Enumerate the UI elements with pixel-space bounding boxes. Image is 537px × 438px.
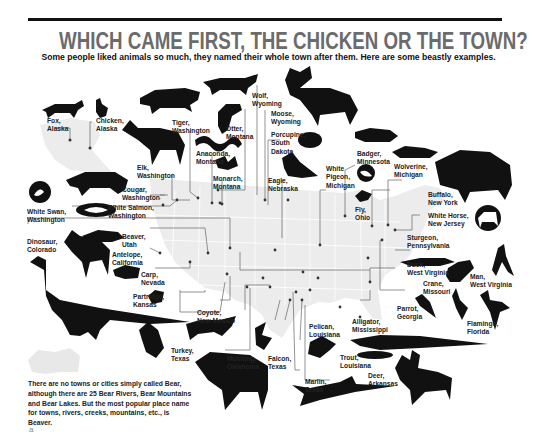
label-badger: Badger,Minnesota (357, 150, 390, 167)
label-duck: Duck,West Virginia (407, 261, 449, 278)
dinosaur-icon (30, 256, 190, 340)
crane-icon (452, 288, 468, 320)
bear-note: There are no towns or cities simply call… (28, 379, 194, 428)
label-flamingo: Flamingo,Florida (467, 320, 498, 337)
label-crane: Crane,Missouri (423, 280, 450, 297)
label-wolf: Wolf,Wyoming (252, 92, 282, 109)
label-eagle: Eagle,Nebraska (268, 177, 298, 194)
label-tiger: Tiger,Washington (172, 119, 210, 136)
label-alligator: Alligator,Mississippi (352, 318, 388, 335)
label-coyote: Coyote,New Mexico (197, 309, 235, 326)
label-carp: Carp,Nevada (141, 271, 165, 288)
label-turkey: Turkey,Texas (171, 347, 194, 364)
label-beaver: Beaver,Utah (122, 233, 146, 250)
chicken-icon (96, 98, 108, 118)
label-partridge: Partridge,Kansas (133, 293, 164, 310)
label-otter: Otter,Montana (226, 125, 253, 142)
label-elk: Elk,Washington (137, 164, 175, 181)
label-white-horse: White Horse,New Jersey (428, 212, 469, 229)
label-buffalo: Buffalo,New York (428, 191, 458, 208)
label-monarch: Monarch,Montana (213, 175, 243, 192)
label-porcupine: Porcupine,SouthDakota (271, 131, 305, 156)
turkey-icon (139, 322, 164, 358)
wolverine-icon (392, 146, 438, 158)
wolf-icon (203, 74, 258, 95)
label-antelope: Antelope,California (112, 251, 143, 268)
label-moose: Moose,Wyoming (271, 110, 301, 127)
deer-icon (395, 350, 452, 405)
label-white-salmon: White Salmon,Washington (108, 204, 154, 221)
label-white-pigeon: WhitePigeon,Michigan (326, 165, 355, 190)
man-icon (492, 244, 514, 276)
page-marker: a (29, 425, 33, 434)
label-fox: Fox,Alaska (47, 117, 68, 134)
tiger-icon (140, 88, 200, 114)
cougar-icon (66, 172, 128, 196)
label-marlin: Marlin,Texas (305, 378, 326, 395)
label-anaconda: Anaconda,Montana (196, 150, 230, 167)
label-wolverine: Wolverine,Michigan (394, 163, 428, 180)
bear-icon (28, 348, 80, 374)
label-chicken: Chicken,Alaska (96, 117, 124, 134)
label-pelican: Pelican,Louisiana (309, 323, 340, 340)
badger-icon (355, 128, 398, 142)
label-fly: Fly,Ohio (355, 206, 370, 223)
label-man: Man,West Virginia (470, 273, 512, 290)
alligator-icon (350, 335, 488, 350)
label-deer: Deer,Arkansas (368, 372, 398, 389)
label-parrot: Parrot,Georgia (397, 305, 422, 322)
label-sturgeon: Sturgeon,Pennsylvania (407, 234, 450, 251)
label-cougar: Cougar,Washington (122, 186, 160, 203)
label-dinosaur: Dinosaur,Colorado (27, 238, 57, 255)
label-falcon: Falcon,Texas (268, 355, 291, 372)
label-white-swan: White Swan,Washington (27, 208, 66, 225)
label-mustang: Mustang,Oklahoma (227, 355, 259, 372)
label-trout: Trout,Louisiana (340, 354, 371, 371)
